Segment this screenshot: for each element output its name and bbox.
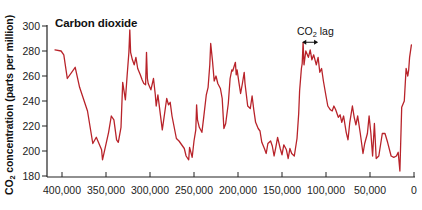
x-tick-label: 400,000 — [43, 184, 81, 196]
annotation-suffix: lag — [317, 25, 334, 37]
axes: 180200220240260280300400,000350,000300,0… — [22, 20, 417, 196]
y-axis-label: CO2 concentration (parts per million) — [3, 15, 15, 195]
y-tick-label: 240 — [22, 95, 40, 107]
y-tick-label: 300 — [22, 20, 40, 32]
annotation-prefix: CO — [297, 25, 313, 37]
y-tick-label: 180 — [22, 170, 40, 182]
co2-series-line — [55, 30, 411, 171]
plot-area: 180200220240260280300400,000350,000300,0… — [0, 0, 422, 210]
x-tick-label: 250,000 — [175, 184, 213, 196]
y-axis-label-subscript: 2 — [8, 176, 17, 180]
y-tick-label: 280 — [22, 45, 40, 57]
chart-title: Carbon dioxide — [55, 17, 137, 29]
x-tick-label: 300,000 — [131, 184, 169, 196]
y-axis-label-prefix: CO — [3, 179, 15, 195]
x-tick-label: 200,000 — [219, 184, 257, 196]
x-tick-label: 350,000 — [87, 184, 125, 196]
x-tick-label: 150,000 — [263, 184, 301, 196]
co2-chart: 180200220240260280300400,000350,000300,0… — [0, 0, 422, 210]
x-tick-label: 0 — [411, 184, 417, 196]
co2-lag-arrow — [302, 40, 318, 45]
y-tick-label: 260 — [22, 70, 40, 82]
x-tick-label: 100,000 — [307, 184, 345, 196]
co2-lag-annotation: CO2 lag — [297, 25, 334, 37]
x-tick-label: 50,000 — [354, 184, 386, 196]
y-axis-label-suffix: concentration (parts per million) — [3, 15, 15, 176]
y-tick-label: 220 — [22, 120, 40, 132]
y-tick-label: 200 — [22, 145, 40, 157]
